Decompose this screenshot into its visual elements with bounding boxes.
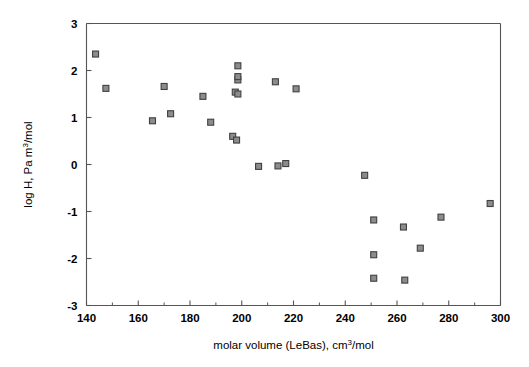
scatter-plot: 140160180200220240260280300-3-2-10123 mo… — [0, 0, 529, 367]
x-tick-label: 300 — [491, 312, 510, 324]
x-tick-label: 160 — [129, 312, 148, 324]
data-point-marker — [402, 277, 408, 283]
data-point-marker — [275, 163, 281, 169]
data-point-marker — [235, 74, 241, 80]
x-tick-label: 260 — [387, 312, 406, 324]
y-axis-title: log H, Pa m3/mol — [21, 121, 34, 207]
x-tick-label: 180 — [180, 312, 199, 324]
y-tick-label: -3 — [67, 300, 77, 312]
data-point-marker — [283, 161, 289, 167]
data-point-marker — [371, 217, 377, 223]
data-point-marker — [487, 201, 493, 207]
chart-figure: 140160180200220240260280300-3-2-10123 mo… — [0, 0, 529, 367]
y-tick-label: 3 — [71, 18, 77, 30]
data-point-marker — [168, 111, 174, 117]
data-point-marker — [208, 119, 214, 125]
x-tick-label: 240 — [336, 312, 355, 324]
data-point-marker — [272, 79, 278, 85]
x-tick-label: 220 — [284, 312, 303, 324]
data-point-marker — [235, 91, 241, 97]
data-point-marker — [293, 86, 299, 92]
data-point-marker — [371, 275, 377, 281]
y-tick-label: 0 — [71, 159, 77, 171]
data-point-marker — [149, 118, 155, 124]
y-tick-label: -1 — [67, 206, 78, 218]
y-tick-label: -2 — [67, 253, 77, 265]
data-point-marker — [200, 93, 206, 99]
x-tick-label: 140 — [77, 312, 96, 324]
x-tick-label: 280 — [439, 312, 458, 324]
x-tick-label: 200 — [232, 312, 251, 324]
data-point-marker — [235, 63, 241, 69]
data-point-marker — [362, 172, 368, 178]
y-tick-label: 2 — [71, 65, 77, 77]
data-point-marker — [234, 137, 240, 143]
y-tick-label: 1 — [71, 112, 78, 124]
data-point-marker — [400, 224, 406, 230]
data-point-marker — [438, 214, 444, 220]
data-point-marker — [417, 245, 423, 251]
data-point-marker — [371, 252, 377, 258]
data-point-marker — [161, 83, 167, 89]
data-point-marker — [103, 85, 109, 91]
data-point-marker — [256, 163, 262, 169]
data-point-marker — [93, 51, 99, 57]
